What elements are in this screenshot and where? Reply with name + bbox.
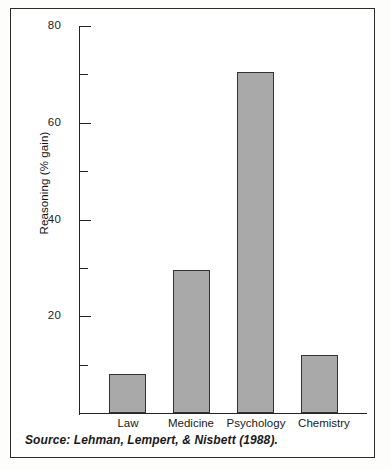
bar-chemistry[interactable] (301, 355, 338, 413)
bar-psychology[interactable] (237, 72, 274, 413)
source-note: Source: Lehman, Lempert, & Nisbett (1988… (25, 433, 278, 447)
bars-layer (11, 9, 376, 459)
bar-law[interactable] (109, 374, 146, 413)
category-label-medicine: Medicine (159, 417, 223, 430)
category-label-chemistry: Chemistry (290, 417, 358, 430)
figure-root: 80 60 40 20 Law Medicine Psychology (0, 0, 391, 469)
bar-medicine[interactable] (173, 270, 210, 413)
category-label-law: Law (97, 417, 159, 430)
y-axis-title: Reasoning (% gain) (38, 88, 50, 278)
figure-frame: 80 60 40 20 Law Medicine Psychology (10, 8, 375, 458)
category-label-psychology: Psychology (222, 417, 290, 430)
plot-area: 80 60 40 20 Law Medicine Psychology (11, 9, 376, 459)
